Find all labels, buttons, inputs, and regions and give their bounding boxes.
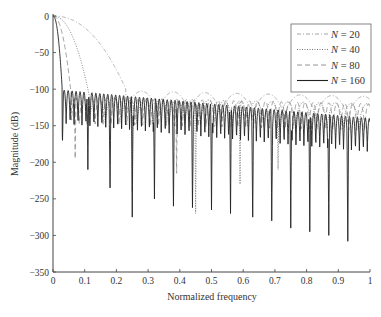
y-tick-label: 0	[44, 12, 49, 22]
y-tick-label: −300	[29, 231, 49, 241]
x-tick-label: 0.6	[237, 276, 249, 286]
x-tick-label: 0.9	[332, 276, 344, 286]
x-tick-label: 0	[51, 276, 56, 286]
x-tick-label: 0.7	[269, 276, 281, 286]
x-tick-label: 0.2	[110, 276, 122, 286]
x-tick-label: 0.1	[79, 276, 91, 286]
x-tick-label: 0.3	[142, 276, 154, 286]
x-axis-label: Normalized frequency	[167, 291, 257, 302]
legend-label: N = 40	[330, 44, 360, 55]
y-tick-label: −50	[34, 48, 49, 58]
magnitude-response-chart: 0−50−100−150−200−250−300−35000.10.20.30.…	[0, 0, 381, 317]
legend-label: N = 160	[330, 75, 365, 86]
legend: N = 20N = 40N = 80N = 160	[291, 24, 371, 92]
y-tick-label: −100	[29, 85, 49, 95]
y-tick-label: −250	[29, 194, 49, 204]
x-tick-label: 0.8	[301, 276, 313, 286]
x-tick-label: 0.5	[206, 276, 218, 286]
legend-label: N = 80	[330, 60, 360, 71]
legend-label: N = 20	[330, 29, 360, 40]
y-axis-label: Magnitude (dB)	[9, 112, 21, 176]
x-tick-label: 0.4	[174, 276, 186, 286]
y-tick-label: −150	[29, 121, 49, 131]
y-tick-label: −200	[29, 158, 49, 168]
y-tick-label: −350	[29, 268, 49, 278]
x-tick-label: 1	[368, 276, 373, 286]
